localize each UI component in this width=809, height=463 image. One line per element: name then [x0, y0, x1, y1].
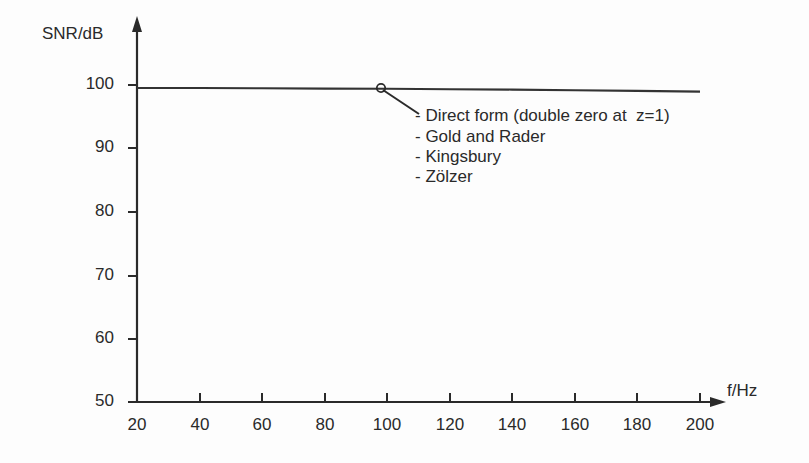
x-tick-label-80: 80 [302, 415, 348, 435]
x-tick-label-40: 40 [177, 415, 223, 435]
annotation-line-gold-and-rader: - Gold and Rader [415, 128, 545, 145]
y-tick-label-80: 80 [68, 201, 114, 221]
annotation-line-direct-form: - Direct form (double zero at z=1) [415, 107, 670, 124]
x-tick-label-200: 200 [677, 415, 723, 435]
x-axis-label: f/Hz [727, 381, 757, 401]
x-tick-label-60: 60 [239, 415, 285, 435]
y-tick-label-60: 60 [68, 328, 114, 348]
y-tick-label-70: 70 [68, 265, 114, 285]
annotation-line-zolzer: - Zölzer [415, 168, 473, 185]
y-tick-label-50: 50 [68, 391, 114, 411]
annotation-line-kingsbury: - Kingsbury [415, 148, 501, 165]
x-tick-label-120: 120 [427, 415, 473, 435]
x-tick-label-140: 140 [489, 415, 535, 435]
x-axis [137, 393, 726, 407]
x-tick-label-160: 160 [552, 415, 598, 435]
y-tick-label-90: 90 [68, 137, 114, 157]
y-axis [128, 16, 142, 402]
y-tick-label-100: 100 [68, 74, 114, 94]
snr-vs-frequency-chart: SNR/dB f/Hz 100 90 80 70 60 50 20 40 60 … [0, 0, 809, 463]
snr-curve [137, 88, 700, 92]
annotation-leader-line [383, 90, 419, 114]
x-tick-label-20: 20 [114, 415, 160, 435]
x-tick-label-180: 180 [614, 415, 660, 435]
plot-canvas [0, 0, 809, 463]
y-axis-label: SNR/dB [42, 24, 103, 44]
x-tick-label-100: 100 [364, 415, 410, 435]
